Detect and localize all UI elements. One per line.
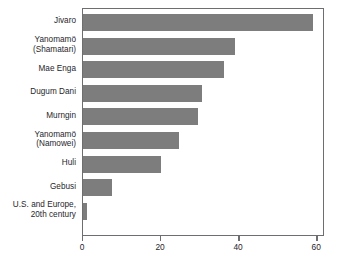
category-label-line: Huli (0, 158, 76, 167)
x-tick-mark (238, 236, 239, 241)
bar-row (83, 38, 325, 55)
bar-row (83, 14, 325, 31)
category-label: U.S. and Europe,20th century (0, 200, 76, 219)
category-label-line: Gebusi (0, 182, 76, 191)
bar (83, 108, 198, 125)
category-label-line: (Shamatari) (0, 45, 76, 54)
category-axis-labels: JivaroYanomamö(Shamatari)Mae EngaDugum D… (0, 8, 76, 220)
category-label: Gebusi (0, 182, 76, 191)
bar (83, 14, 313, 31)
category-label-line: U.S. and Europe, (0, 200, 76, 209)
category-label-line: Murngin (0, 111, 76, 120)
bar (83, 85, 202, 102)
bar-row (83, 132, 325, 149)
x-tick-label: 0 (80, 242, 85, 252)
category-label: Huli (0, 158, 76, 167)
x-tick-mark (82, 236, 83, 241)
bar-row (83, 179, 325, 196)
category-label: Murngin (0, 111, 76, 120)
plot-area (82, 8, 324, 236)
category-label: Dugum Dani (0, 87, 76, 96)
bar-row (83, 85, 325, 102)
x-tick-mark (316, 236, 317, 241)
bar (83, 203, 87, 220)
bar (83, 61, 224, 78)
x-tick-label: 40 (233, 242, 242, 252)
bar (83, 156, 161, 173)
category-label-line: Yanomamö (0, 35, 76, 44)
category-label: Yanomamö(Shamatari) (0, 35, 76, 54)
bar (83, 132, 179, 149)
x-tick-label: 60 (312, 242, 321, 252)
bar-chart: JivaroYanomamö(Shamatari)Mae EngaDugum D… (0, 0, 348, 263)
category-label-line: Dugum Dani (0, 87, 76, 96)
bar (83, 38, 235, 55)
category-label: Jivaro (0, 16, 76, 25)
bar-row (83, 108, 325, 125)
bar-row (83, 156, 325, 173)
x-tick-mark (160, 236, 161, 241)
x-tick-label: 20 (155, 242, 164, 252)
bars-layer (83, 9, 323, 235)
category-label: Mae Enga (0, 64, 76, 73)
category-label-line: Jivaro (0, 16, 76, 25)
category-label: Yanomamö(Namowei) (0, 130, 76, 149)
bar-row (83, 61, 325, 78)
x-axis: 0204060 (82, 236, 324, 260)
category-label-line: Mae Enga (0, 64, 76, 73)
bar (83, 179, 112, 196)
category-label-line: Yanomamö (0, 130, 76, 139)
category-label-line: (Namowei) (0, 139, 76, 148)
bar-row (83, 203, 325, 220)
category-label-line: 20th century (0, 210, 76, 219)
